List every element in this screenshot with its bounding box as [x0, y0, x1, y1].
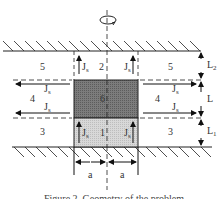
svg-text:5: 5	[168, 61, 173, 72]
svg-text:3: 3	[40, 126, 45, 137]
svg-text:Js: Js	[82, 61, 89, 74]
svg-text:6: 6	[100, 93, 105, 104]
svg-text:4: 4	[30, 93, 35, 104]
svg-text:3: 3	[168, 126, 173, 137]
dim-L: L	[207, 93, 213, 104]
svg-text:2: 2	[99, 61, 104, 72]
dim-a-right: a	[120, 169, 125, 180]
svg-text:Js: Js	[44, 83, 51, 96]
dim-L1: L1	[207, 125, 217, 138]
geometry-diagram: Js Js Js Js Js Js Js Js 5 5 2 4 4 6 3 3 …	[0, 0, 224, 199]
dim-L2: L2	[207, 59, 217, 72]
rotation-icon	[100, 16, 116, 25]
svg-text:1: 1	[100, 127, 105, 138]
bottom-wall	[12, 147, 212, 157]
svg-text:Js: Js	[124, 61, 131, 74]
region-labels: 5 5 2 4 4 6 3 3 1	[30, 61, 173, 138]
svg-text:Js: Js	[172, 83, 179, 96]
region-6-block	[74, 80, 138, 118]
figure-caption: Figure 2. Geometry of the problem	[44, 193, 184, 199]
svg-text:4: 4	[155, 93, 160, 104]
svg-text:Js: Js	[172, 101, 179, 114]
top-wall	[3, 41, 201, 51]
svg-text:Js: Js	[44, 101, 51, 114]
svg-text:5: 5	[40, 61, 45, 72]
dim-a-left: a	[88, 169, 93, 180]
